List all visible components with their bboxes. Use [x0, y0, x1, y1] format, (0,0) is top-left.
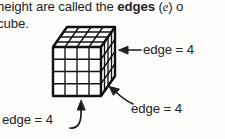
cube-svg [44, 18, 126, 106]
line1-paren-close: ) o [168, 0, 183, 14]
cube-diagram [44, 18, 126, 106]
term-edges: edges [117, 0, 155, 14]
line1-paren-open: ( [155, 0, 163, 14]
annotation-label-lower: edge = 4 [131, 102, 182, 116]
annotation-label-bottom: edge = 4 [2, 113, 53, 127]
figure-page: height are called the edges (e) o cube. [0, 0, 225, 139]
annotation-label-right: edge = 4 [143, 43, 194, 57]
text-line-1: height are called the edges (e) o [0, 0, 183, 14]
line1-prefix: height are called the [0, 0, 117, 14]
